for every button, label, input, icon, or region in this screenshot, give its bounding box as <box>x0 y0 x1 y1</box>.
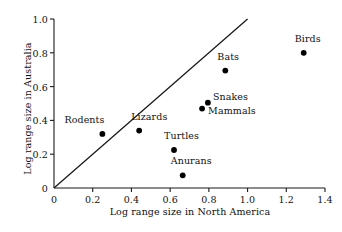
data-point-marker <box>136 128 142 134</box>
x-axis-title: Log range size in North America <box>110 206 271 217</box>
data-point-label: Bats <box>217 51 239 62</box>
data-point-marker <box>180 172 186 178</box>
data-point-marker <box>99 131 105 137</box>
y-axis-tick-label: 0.4 <box>24 115 48 126</box>
x-axis-tick-label: 1.4 <box>317 194 332 205</box>
data-point-marker <box>171 147 177 153</box>
x-axis-tick-label: 0.8 <box>201 194 216 205</box>
y-axis-ticks <box>50 19 54 154</box>
y-axis-tick-label: 1.0 <box>24 14 48 25</box>
scatter-plot-figure: Log range size in North America Log rang… <box>0 0 342 232</box>
one-to-one-line <box>54 19 248 188</box>
x-axis-tick-label: 0.2 <box>85 194 100 205</box>
y-axis-tick-label: 0.6 <box>24 81 48 92</box>
y-axis-tick-label: 0.8 <box>24 47 48 58</box>
x-axis-tick-label: 0 <box>51 194 57 205</box>
x-axis-tick-label: 1.2 <box>279 194 294 205</box>
x-axis-tick-label: 1.0 <box>240 194 255 205</box>
data-point-label: Snakes <box>213 91 248 102</box>
one-to-one-reference-line <box>54 19 248 188</box>
y-axis-tick-label: 0.2 <box>24 149 48 160</box>
x-axis-ticks <box>93 188 325 192</box>
data-point-marker <box>301 50 307 56</box>
data-point-marker <box>222 68 228 74</box>
data-point-label: Mammals <box>208 105 256 116</box>
x-axis-tick-label: 0.4 <box>124 194 139 205</box>
data-point-label: Turtles <box>164 130 199 141</box>
y-axis-tick-label: 0 <box>24 183 48 194</box>
data-point-marker <box>199 106 205 112</box>
data-point-label: Lizards <box>131 111 167 122</box>
x-axis-tick-label: 0.6 <box>162 194 177 205</box>
data-point-label: Birds <box>295 33 321 44</box>
data-point-label: Rodents <box>64 114 104 125</box>
data-point-label: Anurans <box>171 155 212 166</box>
